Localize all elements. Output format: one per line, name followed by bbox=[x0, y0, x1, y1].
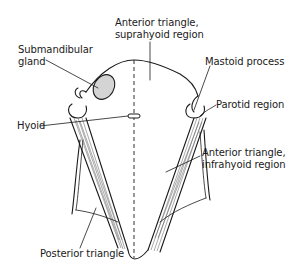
label-line: infrahyoid region bbox=[202, 159, 285, 171]
label-line: Anterior triangle, bbox=[115, 17, 204, 29]
label-hyoid: Hyoid bbox=[17, 120, 45, 132]
left-ear-curl-lower bbox=[69, 104, 87, 118]
right-clavicle-line bbox=[160, 198, 206, 222]
submandibular-gland-shape bbox=[89, 71, 119, 104]
leader-parotid bbox=[200, 105, 216, 116]
hyoid-bone bbox=[128, 114, 140, 118]
label-line: gland bbox=[18, 56, 93, 68]
left-ear-curl-upper bbox=[75, 88, 86, 98]
label-parotid-region: Parotid region bbox=[216, 99, 284, 111]
label-submandibular-gland: Submandibular gland bbox=[18, 44, 93, 68]
label-mastoid-process: Mastoid process bbox=[205, 56, 284, 68]
suprasternal-notch bbox=[128, 250, 148, 259]
label-anterior-suprahyoid: Anterior triangle, suprahyoid region bbox=[115, 17, 204, 41]
label-anterior-infrahyoid: Anterior triangle, infrahyoid region bbox=[202, 147, 285, 171]
right-scm-muscle bbox=[148, 118, 206, 252]
label-line: Submandibular bbox=[18, 44, 93, 56]
leader-mastoid bbox=[194, 66, 210, 110]
label-line: Anterior triangle, bbox=[202, 147, 285, 159]
label-posterior-triangle: Posterior triangle bbox=[40, 248, 124, 260]
left-trapezius-line bbox=[72, 140, 80, 214]
right-ear-curl-upper bbox=[192, 96, 198, 112]
label-line: suprahyoid region bbox=[115, 29, 204, 41]
leader-posterior bbox=[80, 208, 96, 248]
left-trapezius-line-inner bbox=[76, 140, 83, 210]
